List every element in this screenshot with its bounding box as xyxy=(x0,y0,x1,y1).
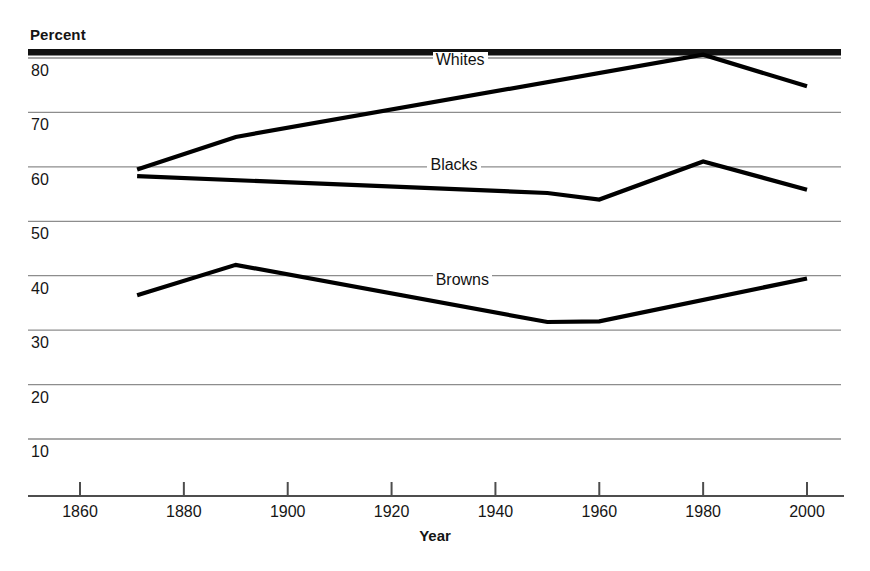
series-label-browns: Browns xyxy=(433,272,492,289)
x-tick-label-1960: 1960 xyxy=(559,504,639,520)
y-tick-label-70: 70 xyxy=(31,117,49,133)
series-label-blacks: Blacks xyxy=(427,157,480,174)
y-tick-label-80: 80 xyxy=(31,63,49,79)
y-tick-label-50: 50 xyxy=(31,226,49,242)
x-tick-label-1980: 1980 xyxy=(663,504,743,520)
line-chart: Percent 1020304050607080 186018801900192… xyxy=(0,0,870,571)
y-tick-label-10: 10 xyxy=(31,444,49,460)
x-tick-label-1900: 1900 xyxy=(248,504,328,520)
x-tick-label-1920: 1920 xyxy=(352,504,432,520)
y-tick-label-30: 30 xyxy=(31,335,49,351)
x-axis-ticks xyxy=(80,482,807,496)
x-tick-label-2000: 2000 xyxy=(767,504,847,520)
series-label-whites: Whites xyxy=(433,52,488,69)
x-axis-title: Year xyxy=(0,527,870,544)
y-tick-label-40: 40 xyxy=(31,281,49,297)
x-tick-label-1940: 1940 xyxy=(455,504,535,520)
gridlines-group xyxy=(28,58,841,439)
y-tick-label-60: 60 xyxy=(31,172,49,188)
x-tick-label-1880: 1880 xyxy=(144,504,224,520)
x-tick-label-1860: 1860 xyxy=(40,504,120,520)
y-tick-label-20: 20 xyxy=(31,390,49,406)
